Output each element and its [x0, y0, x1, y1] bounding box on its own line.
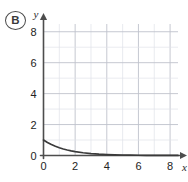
x-tick-label: 2	[72, 160, 78, 172]
y-tick-label: 0	[30, 150, 36, 162]
grid-lines	[44, 24, 179, 156]
x-tick-label: 6	[135, 160, 141, 172]
axes	[40, 13, 187, 159]
answer-choice-figure: B 02468 02468 x y	[0, 0, 188, 182]
y-tick-label: 2	[30, 119, 36, 131]
y-axis-tick-labels: 02468	[30, 26, 36, 162]
x-axis-label: x	[181, 161, 187, 173]
y-tick-label: 6	[30, 57, 36, 69]
data-series-curve	[44, 140, 179, 155]
y-tick-label: 8	[30, 26, 36, 38]
y-axis-arrowhead	[40, 13, 47, 20]
x-tick-label: 0	[40, 160, 46, 172]
x-axis-arrowhead	[180, 152, 187, 159]
y-tick-label: 4	[30, 88, 36, 100]
chart-svg: 02468 02468 x y	[0, 0, 188, 182]
x-tick-label: 8	[167, 160, 173, 172]
y-axis-label: y	[33, 8, 39, 20]
x-axis-tick-labels: 02468	[40, 160, 173, 172]
coordinate-plane-chart: 02468 02468 x y	[0, 0, 188, 182]
x-tick-label: 4	[104, 160, 110, 172]
